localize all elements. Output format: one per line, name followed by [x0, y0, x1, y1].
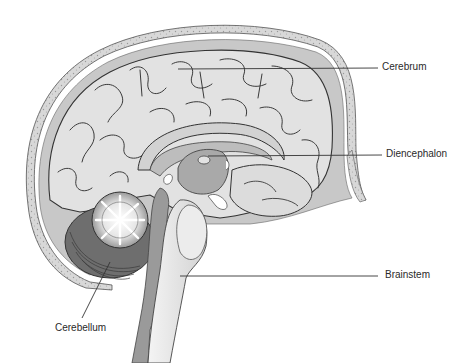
label-brainstem: Brainstem [385, 269, 430, 280]
label-cerebellum: Cerebellum [55, 322, 106, 333]
label-cerebrum: Cerebrum [382, 61, 426, 72]
brain-illustration [0, 0, 466, 363]
label-diencephalon: Diencephalon [386, 148, 447, 159]
